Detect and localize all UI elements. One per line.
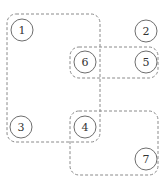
node-2-label: 2 — [143, 25, 150, 38]
node-4-label: 4 — [82, 121, 89, 134]
node-7-label: 7 — [143, 153, 150, 166]
set-diagram: 1 2 6 5 3 4 7 — [0, 0, 167, 185]
node-6-label: 6 — [82, 56, 89, 69]
node-3-label: 3 — [18, 121, 25, 134]
node-5-label: 5 — [143, 56, 150, 69]
node-1-label: 1 — [19, 24, 26, 37]
